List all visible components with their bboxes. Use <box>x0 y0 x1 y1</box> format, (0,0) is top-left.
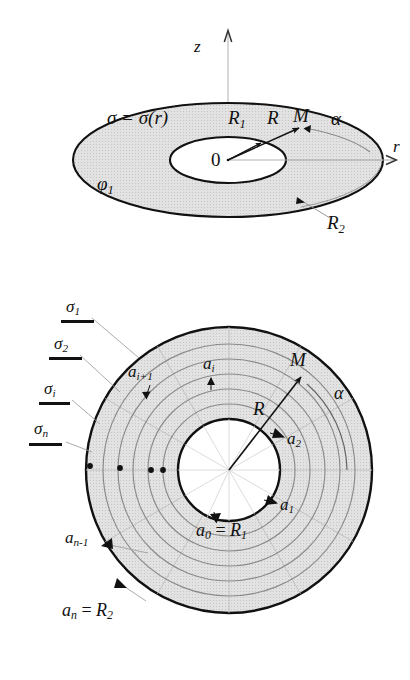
label-sigma-i: σi <box>44 380 56 399</box>
label-top-alpha: α <box>331 109 341 128</box>
label-a-2-base: a <box>287 429 296 448</box>
label-a-n-minus-1: an-1 <box>65 529 88 548</box>
label-a-2-sub: 2 <box>296 437 302 449</box>
label-a-i-base: a <box>203 354 212 373</box>
label-top-R-vector: R <box>267 108 279 127</box>
label-a-n-minus-1-sub: n-1 <box>74 536 89 548</box>
top-origin-dot <box>227 159 230 162</box>
figure-container: z r σ = σ(r) R1 R M α φ1 0 R2 σ1 σ2 σi σ… <box>0 0 410 680</box>
label-an-rhs-sub: 2 <box>107 608 113 622</box>
label-a-i-sub: i <box>212 362 215 374</box>
label-a-2: a2 <box>287 430 301 449</box>
label-top-phi1: φ1 <box>97 174 114 196</box>
label-a-i: ai <box>203 355 215 374</box>
label-a-i-plus-1-sub: i+1 <box>137 370 153 382</box>
label-sigma-1-sub: 1 <box>74 305 80 317</box>
plan-an-arrowhead <box>114 578 127 588</box>
label-a0-rhs-base: R <box>230 520 241 540</box>
label-plan-alpha: α <box>334 384 343 402</box>
label-sigma-n-sub: n <box>42 427 48 439</box>
label-a0-equals-R1: a0 = R1 <box>196 521 247 542</box>
label-density-function: σ = σ(r) <box>107 108 168 127</box>
label-a-i-plus-1-base: a <box>128 362 137 381</box>
label-an-base: a <box>62 600 71 620</box>
label-top-R1: R1 <box>228 108 246 130</box>
label-top-origin: 0 <box>211 150 221 169</box>
label-a0-rhs-sub: 1 <box>241 528 247 542</box>
label-an-equals: = <box>77 600 96 620</box>
label-top-R2-base: R <box>327 212 339 233</box>
sigma-1-underline <box>61 320 94 323</box>
label-a-1-sub: 1 <box>289 503 295 515</box>
sigma-2-underline <box>49 357 82 360</box>
label-sigma-2: σ2 <box>54 335 68 354</box>
label-plan-R: R <box>253 399 265 418</box>
label-sigma-1: σ1 <box>66 298 80 317</box>
label-z-axis: z <box>194 38 201 55</box>
label-top-R1-sub: 1 <box>240 117 246 131</box>
label-r-axis: r <box>393 138 400 155</box>
label-an-equals-R2: an = R2 <box>62 601 113 622</box>
label-top-R2: R2 <box>327 213 345 235</box>
label-top-phi-base: φ <box>97 173 108 194</box>
label-a0-equals: = <box>211 520 230 540</box>
label-a-i-plus-1: ai+1 <box>128 363 153 382</box>
sigma-i-underline <box>39 402 70 405</box>
label-top-R2-sub: 2 <box>339 222 345 236</box>
label-top-M: M <box>293 106 309 125</box>
label-a-n-minus-1-base: a <box>65 528 74 547</box>
label-top-R1-base: R <box>228 107 240 128</box>
label-sigma-i-sub: i <box>52 387 55 399</box>
bottom-panel-group <box>66 318 372 613</box>
label-sigma-n: σn <box>34 420 48 439</box>
label-sigma-2-sub: 2 <box>62 342 68 354</box>
label-a-1: a1 <box>280 496 294 515</box>
label-a-1-base: a <box>280 495 289 514</box>
label-plan-M: M <box>290 350 306 369</box>
label-an-rhs-base: R <box>96 600 107 620</box>
label-a0-base: a <box>196 520 205 540</box>
label-top-phi-sub: 1 <box>108 183 114 197</box>
sigma-n-underline <box>29 443 62 446</box>
